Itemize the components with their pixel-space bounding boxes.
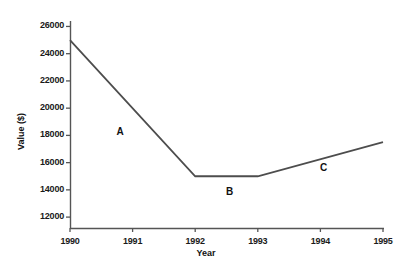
y-tick-label: 18000 (20, 129, 64, 139)
x-tick-label: 1994 (298, 236, 342, 246)
x-axis-title: Year (196, 248, 215, 258)
segment-label-c: C (314, 162, 334, 173)
y-tick-label: 20000 (20, 102, 64, 112)
y-tick-label: 22000 (20, 75, 64, 85)
data-series-line (70, 40, 383, 176)
x-tick-label: 1990 (48, 236, 92, 246)
y-tick-label: 26000 (20, 20, 64, 30)
y-tick-label: 14000 (20, 184, 64, 194)
x-tick-label: 1993 (236, 236, 280, 246)
y-axis-title: Value ($) (16, 113, 26, 150)
y-tick-label: 12000 (20, 211, 64, 221)
x-tick-label: 1991 (111, 236, 155, 246)
y-axis-ticks (66, 26, 70, 217)
segment-label-b: B (220, 186, 240, 197)
x-tick-label: 1995 (361, 236, 405, 246)
x-tick-label: 1992 (173, 236, 217, 246)
segment-label-a: A (110, 126, 130, 137)
y-tick-label: 24000 (20, 48, 64, 58)
line-chart: 1200014000160001800020000220002400026000… (0, 0, 412, 266)
y-tick-label: 16000 (20, 157, 64, 167)
